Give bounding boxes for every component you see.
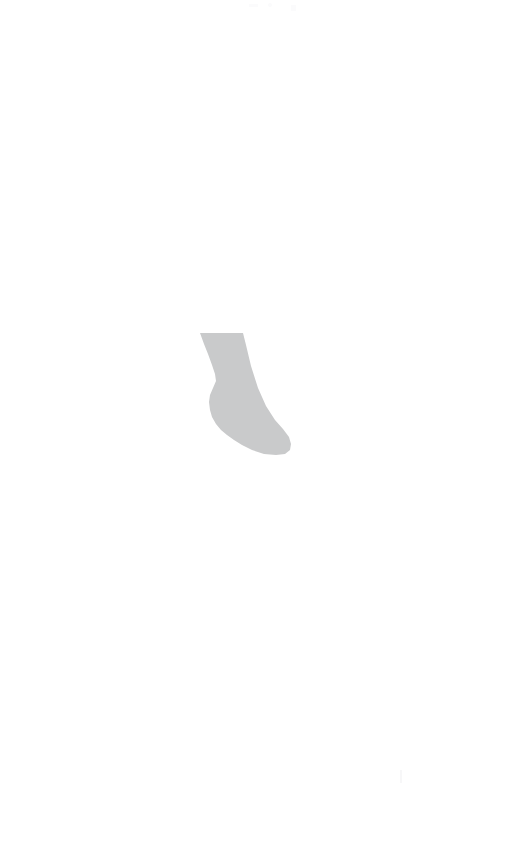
- foot-sock-silhouette-shape: [200, 333, 291, 455]
- top-mark-b-artifact: [268, 3, 272, 7]
- top-mark-c-artifact: [291, 5, 296, 11]
- figure-layer: [0, 0, 527, 844]
- bottom-right-tick-artifact: [400, 770, 402, 783]
- page-canvas: Light gray silhouette of a human foot an…: [0, 0, 527, 844]
- top-mark-a-artifact: [249, 4, 258, 7]
- foot-silhouette-svg: [0, 0, 527, 844]
